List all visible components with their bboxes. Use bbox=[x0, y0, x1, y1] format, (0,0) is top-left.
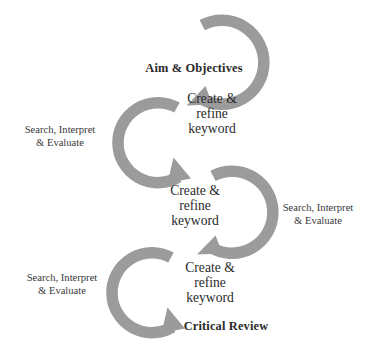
arrow-cycle-3-head bbox=[197, 236, 223, 255]
label-search-interpret-evaluate-2: Search, Interpret & Evaluate bbox=[266, 202, 370, 227]
arrow-cycle-2-arc bbox=[118, 103, 179, 183]
node-keyword-2: Create & refine keyword bbox=[155, 183, 235, 229]
arrow-cycle-4-arc bbox=[112, 253, 173, 333]
node-aim-objectives: Aim & Objectives bbox=[136, 62, 252, 75]
label-search-interpret-evaluate-3: Search, Interpret & Evaluate bbox=[10, 272, 114, 297]
node-critical-review: Critical Review bbox=[172, 320, 280, 333]
arrow-cycle-2-head bbox=[168, 158, 192, 184]
node-keyword-3: Create & refine keyword bbox=[170, 260, 250, 306]
label-search-interpret-evaluate-1: Search, Interpret & Evaluate bbox=[8, 124, 112, 149]
node-keyword-1: Create & refine keyword bbox=[172, 91, 252, 137]
literature-search-cycle-diagram: Aim & Objectives Create & refine keyword… bbox=[0, 0, 375, 356]
